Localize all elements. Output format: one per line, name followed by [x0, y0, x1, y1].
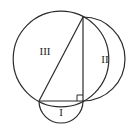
- label-i: I: [59, 106, 63, 118]
- label-iii: III: [40, 45, 51, 57]
- triangle-semicircles-diagram: III II I: [0, 0, 136, 127]
- hypotenuse: [39, 17, 83, 101]
- label-ii: II: [101, 53, 109, 65]
- right-angle-marker: [77, 95, 83, 101]
